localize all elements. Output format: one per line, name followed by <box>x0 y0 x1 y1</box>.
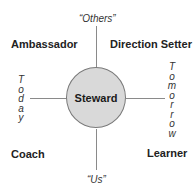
axis-letter: w <box>168 129 175 139</box>
horizontal-axis-left-line <box>30 98 67 99</box>
axis-letter: y <box>19 113 24 123</box>
axis-label-tomorrow: T o m o r r o w <box>167 62 177 138</box>
center-label: Steward <box>75 92 118 104</box>
vertical-axis-bottom-line <box>96 129 97 170</box>
quadrant-label-direction-setter: Direction Setter <box>110 38 192 50</box>
steward-quadrant-diagram: Steward Ambassador Direction Setter Coac… <box>0 0 193 193</box>
vertical-axis-top-line <box>96 26 97 68</box>
quadrant-label-ambassador: Ambassador <box>11 38 78 50</box>
axis-label-today: T o d a y <box>16 75 26 123</box>
quadrant-label-coach: Coach <box>11 148 45 160</box>
axis-label-us: “Us” <box>87 174 106 185</box>
center-circle: Steward <box>66 67 126 128</box>
quadrant-label-learner: Learner <box>147 147 187 159</box>
axis-label-others: “Others” <box>79 13 116 24</box>
horizontal-axis-right-line <box>126 98 165 99</box>
